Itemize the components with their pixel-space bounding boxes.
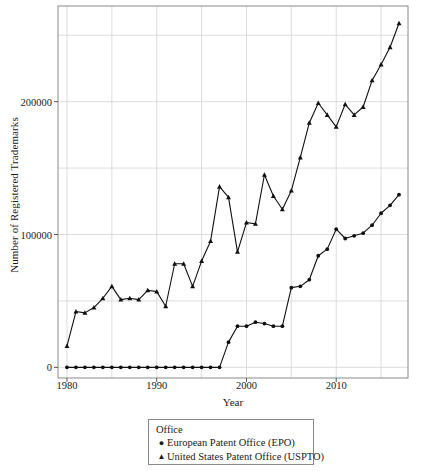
series-uspto <box>65 21 402 348</box>
series-epo <box>65 193 401 370</box>
legend-item-epo[interactable]: ● European Patent Office (EPO) <box>156 436 313 450</box>
triangle-marker-icon: ▲ <box>156 450 167 464</box>
legend-item-uspto[interactable]: ▲ United States Patent Office (USPTO) <box>156 450 313 464</box>
tick-marks <box>54 102 336 382</box>
x-tick-label: 2010 <box>312 380 360 391</box>
legend-box: Office ● European Patent Office (EPO) ▲ … <box>148 419 314 465</box>
x-tick-label: 1980 <box>43 380 91 391</box>
x-axis-title: Year <box>58 396 408 408</box>
legend-label-uspto: United States Patent Office (USPTO) <box>167 450 324 464</box>
trademark-registrations-chart: 0100000200000 1980199020002010 Number of… <box>0 0 423 471</box>
circle-marker-icon: ● <box>156 436 167 450</box>
legend-title: Office <box>156 423 313 436</box>
x-tick-label: 1990 <box>133 380 181 391</box>
y-axis-title: Number of Registered Trademarks <box>8 5 26 385</box>
gridlines <box>58 6 408 378</box>
axes-frame <box>58 6 408 378</box>
x-tick-label: 2000 <box>222 380 270 391</box>
legend-label-epo: European Patent Office (EPO) <box>167 436 295 450</box>
